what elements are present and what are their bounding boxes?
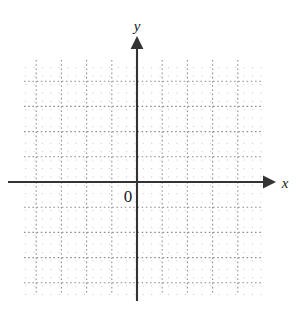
y-axis-label: y xyxy=(132,18,141,34)
coordinate-plane-svg: x y 0 xyxy=(0,0,301,312)
origin-label: 0 xyxy=(124,187,133,206)
coordinate-plane-figure: x y 0 xyxy=(0,0,301,312)
grid-region xyxy=(24,60,262,295)
x-axis-label: x xyxy=(281,175,289,191)
y-axis-arrowhead xyxy=(131,36,144,49)
minor-grid xyxy=(24,60,262,295)
x-axis-arrowhead xyxy=(263,176,276,189)
